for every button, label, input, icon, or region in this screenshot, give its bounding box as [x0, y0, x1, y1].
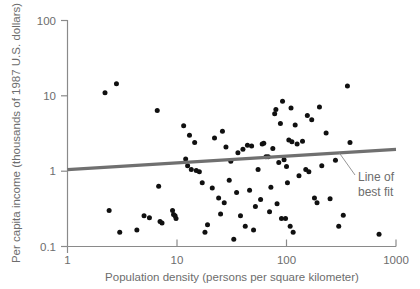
- scatter-point: [107, 208, 112, 213]
- x-tick-label-1: 1: [64, 254, 70, 266]
- scatter-point: [240, 147, 245, 152]
- scatter-point: [216, 196, 221, 201]
- scatter-point: [181, 123, 186, 128]
- scatter-point: [156, 184, 161, 189]
- scatter-point: [309, 117, 314, 122]
- scatter-point: [185, 163, 190, 168]
- scatter-point: [306, 169, 311, 174]
- scatter-point: [341, 213, 346, 218]
- scatter-point: [234, 190, 239, 195]
- scatter-point: [103, 90, 108, 95]
- scatter-point: [295, 141, 300, 146]
- scatter-point: [285, 180, 290, 185]
- scatter-point: [243, 224, 248, 229]
- scatter-point: [117, 230, 122, 235]
- scatter-point: [160, 221, 165, 226]
- scatter-point: [147, 215, 152, 220]
- scatter-point: [210, 185, 215, 190]
- scatter-point: [202, 230, 207, 235]
- scatter-point: [347, 140, 352, 145]
- scatter-point: [258, 197, 263, 202]
- scatter-point: [220, 129, 225, 134]
- scatter-point: [328, 196, 333, 201]
- scatter-point: [251, 228, 256, 233]
- axis-frame: [68, 20, 397, 247]
- scatter-point: [324, 131, 329, 136]
- scatter-point: [218, 212, 223, 217]
- annotation-leader-line: [339, 153, 355, 176]
- scatter-point: [245, 143, 250, 148]
- scatter-point: [231, 237, 236, 242]
- scatter-point: [223, 144, 228, 149]
- scatter-point: [275, 201, 280, 206]
- scatter-point: [315, 200, 320, 205]
- x-tick-label-1000: 1000: [383, 254, 409, 266]
- scatter-point: [189, 167, 194, 172]
- scatter-point: [227, 178, 232, 183]
- scatter-point: [283, 216, 288, 221]
- scatter-point: [289, 105, 294, 110]
- scatter-point: [114, 81, 119, 86]
- scatter-point: [200, 180, 205, 185]
- scatter-point: [289, 139, 294, 144]
- scatter-point: [319, 163, 324, 168]
- scatter-points-group: [103, 81, 382, 242]
- x-axis-title: Population density (persons per square k…: [105, 271, 359, 283]
- scatter-point: [267, 209, 272, 214]
- scatter-point: [174, 216, 179, 221]
- scatter-point: [197, 169, 202, 174]
- scatter-point: [333, 158, 338, 163]
- scatter-point: [192, 140, 197, 145]
- annotation-line-of-best-fit-line2: best fit: [358, 185, 394, 199]
- line-of-best-fit: [68, 149, 397, 169]
- scatter-point: [253, 204, 258, 209]
- scatter-point: [280, 99, 285, 104]
- scatter-point: [278, 121, 283, 126]
- scatter-point: [205, 222, 210, 227]
- scatter-point: [282, 157, 287, 162]
- scatter-point: [155, 108, 160, 113]
- scatter-point: [312, 196, 317, 201]
- scatter-point: [238, 213, 243, 218]
- scatter-point: [273, 107, 278, 112]
- scatter-point: [256, 167, 261, 172]
- scatter-point: [142, 213, 147, 218]
- y-axis-title: Per capita income (thousands of 1987 U.S…: [10, 3, 22, 263]
- scatter-point: [284, 164, 289, 169]
- y-tick-label-0.1: 0.1: [40, 241, 56, 253]
- scatter-point: [268, 185, 273, 190]
- y-tick-label-1: 1: [50, 165, 56, 177]
- annotation-line-of-best-fit-line1: Line of: [358, 170, 395, 184]
- scatter-point: [293, 123, 298, 128]
- scatter-point: [134, 228, 139, 233]
- scatter-point: [276, 160, 281, 165]
- scatter-point: [336, 224, 341, 229]
- scatter-point: [235, 150, 240, 155]
- scatter-point: [296, 173, 301, 178]
- y-tick-label-100: 100: [37, 15, 56, 27]
- scatter-point: [300, 139, 305, 144]
- scatter-point: [305, 113, 310, 118]
- y-tick-label-10: 10: [43, 90, 56, 102]
- scatter-point: [212, 136, 217, 141]
- scatter-point: [291, 230, 296, 235]
- scatter-point: [270, 146, 275, 151]
- scatter-point: [317, 105, 322, 110]
- scatter-point: [247, 188, 252, 193]
- chart-page: 100 10 1 0.1 1 10 100 1000 Population de…: [0, 0, 420, 289]
- y-axis-ticks: [61, 21, 68, 247]
- scatter-point: [249, 144, 254, 149]
- x-tick-label-100: 100: [277, 254, 296, 266]
- scatter-point: [187, 133, 192, 138]
- scatter-point: [345, 84, 350, 89]
- scatter-point: [377, 232, 382, 237]
- scatter-plot: 100 10 1 0.1 1 10 100 1000 Population de…: [0, 0, 420, 289]
- scatter-point: [261, 141, 266, 146]
- scatter-point: [222, 200, 227, 205]
- scatter-point: [272, 111, 277, 116]
- x-tick-label-10: 10: [171, 254, 184, 266]
- scatter-point: [288, 224, 293, 229]
